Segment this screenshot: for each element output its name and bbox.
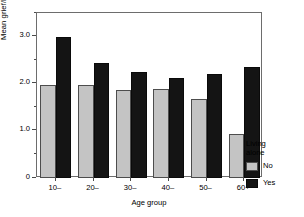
y-tick-label: 3.0 bbox=[19, 30, 30, 39]
bar-50-yes bbox=[207, 74, 223, 178]
x-axis-title: Age group bbox=[36, 198, 262, 207]
bar-20-no bbox=[78, 85, 94, 178]
bar-10-no bbox=[40, 85, 56, 178]
legend-label: Yes bbox=[263, 178, 275, 187]
grief-loneliness-bar-chart: Mean grief/loneliness score 01.02.03.0 1… bbox=[0, 0, 304, 217]
plot-area bbox=[36, 12, 262, 177]
x-tick-label: 50– bbox=[192, 183, 220, 192]
legend-items: NoYes bbox=[246, 161, 304, 192]
bar-50-no bbox=[191, 99, 207, 178]
bar-40-yes bbox=[169, 78, 185, 178]
bar-30-yes bbox=[131, 72, 147, 178]
y-axis-title: Mean grief/loneliness score bbox=[0, 0, 8, 40]
bar-20-yes bbox=[94, 63, 110, 179]
x-tick-label: 30– bbox=[116, 183, 144, 192]
y-tick-label: 2.0 bbox=[19, 77, 30, 86]
x-tick-label: 10– bbox=[41, 183, 69, 192]
x-tick-label: 20– bbox=[79, 183, 107, 192]
legend-swatch-yes bbox=[246, 179, 258, 188]
legend-item-no[interactable]: No bbox=[246, 161, 304, 175]
y-tick-label: 0 bbox=[26, 172, 30, 181]
x-tick-label: 40– bbox=[154, 183, 182, 192]
y-tick-label: 1.0 bbox=[19, 124, 30, 133]
legend-label: No bbox=[263, 161, 273, 170]
legend: Living alone NoYes bbox=[246, 139, 304, 192]
bar-30-no bbox=[116, 90, 132, 178]
legend-title: Living alone bbox=[246, 139, 304, 158]
legend-item-yes[interactable]: Yes bbox=[246, 178, 304, 192]
bar-40-no bbox=[153, 89, 169, 178]
bar-10-yes bbox=[56, 37, 72, 178]
bar-60+-no bbox=[229, 134, 245, 178]
legend-swatch-no bbox=[246, 162, 258, 171]
